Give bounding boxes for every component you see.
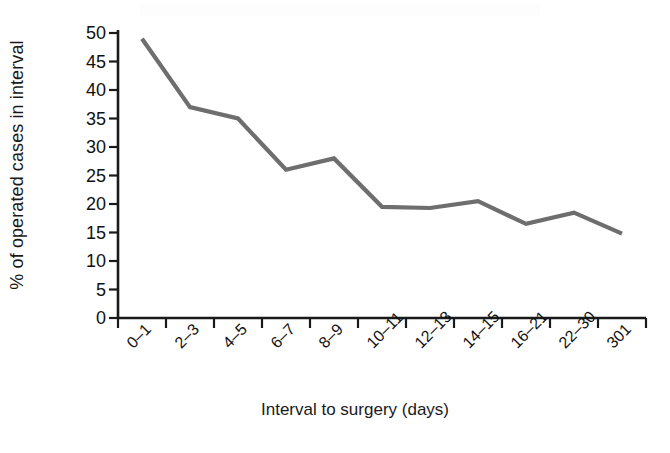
- y-tick-label: 15: [70, 224, 106, 242]
- y-tick-label: 20: [70, 195, 106, 213]
- y-tick-label: 45: [70, 53, 106, 71]
- y-tick-label: 10: [70, 252, 106, 270]
- y-tick-label: 30: [70, 138, 106, 156]
- y-tick-label: 5: [70, 281, 106, 299]
- axes: [118, 30, 646, 318]
- y-tick-label: 40: [70, 81, 106, 99]
- data-series-line: [142, 39, 622, 234]
- axis-ticks: [109, 33, 646, 328]
- y-tick-label: 0: [70, 309, 106, 327]
- chart-figure: % of operated cases in interval 50454035…: [0, 0, 670, 453]
- y-tick-label: 35: [70, 110, 106, 128]
- y-tick-label: 50: [70, 24, 106, 42]
- y-tick-label: 25: [70, 167, 106, 185]
- x-axis-title: Interval to surgery (days): [120, 400, 590, 420]
